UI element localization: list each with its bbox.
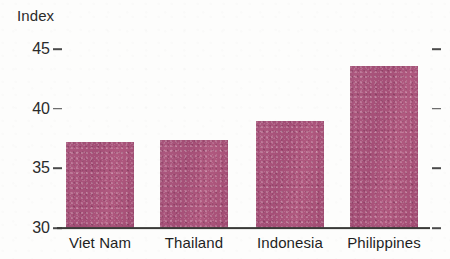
- bar-thailand: [160, 140, 228, 228]
- y-tick-mark-right-30: [432, 227, 441, 229]
- y-tick-mark-right-40: [432, 108, 441, 110]
- y-tick-mark-right-45: [432, 48, 441, 50]
- plot-area: 45 40 35 30: [0, 0, 450, 259]
- bar-chart-figure: Index 45 40 35 30 Viet Nam Thailand Indo…: [0, 0, 450, 259]
- x-tick-label-viet-nam: Viet Nam: [69, 234, 131, 251]
- y-tick-mark-right-35: [432, 168, 441, 170]
- y-tick-label-45: 45: [16, 40, 50, 58]
- x-tick-label-indonesia: Indonesia: [257, 234, 323, 251]
- x-tick-label-philippines: Philippines: [347, 234, 421, 251]
- y-tick-mark-40: [53, 108, 62, 110]
- y-tick-label-40: 40: [16, 100, 50, 118]
- y-tick-mark-35: [53, 168, 62, 170]
- y-tick-label-35: 35: [16, 159, 50, 177]
- bar-philippines: [350, 66, 418, 228]
- bar-indonesia: [256, 121, 324, 228]
- bar-viet-nam: [66, 142, 134, 228]
- x-tick-label-thailand: Thailand: [165, 234, 223, 251]
- y-tick-label-30: 30: [16, 219, 50, 237]
- x-axis-line: [57, 227, 430, 229]
- y-tick-mark-45: [53, 48, 62, 50]
